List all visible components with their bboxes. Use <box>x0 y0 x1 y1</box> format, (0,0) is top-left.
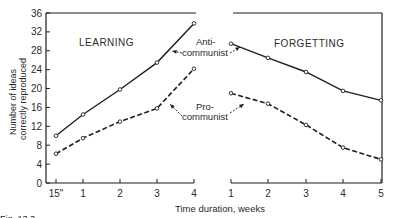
y-tick-label: 4 <box>36 159 42 170</box>
learning-pro-communist-line <box>56 69 194 154</box>
data-point <box>304 123 308 127</box>
annotation-anti-line2: communist <box>182 47 228 58</box>
data-point <box>54 152 58 156</box>
data-point <box>192 67 196 71</box>
data-point <box>155 107 159 111</box>
data-point <box>192 22 196 26</box>
learning-forgetting-chart: 0481216202428323615"123412345 LEARNING F… <box>0 0 393 218</box>
y-tick-label: 8 <box>36 140 42 151</box>
data-point <box>266 56 270 60</box>
x-tick-label: 4 <box>191 188 197 199</box>
x-tick-label: 5 <box>378 188 384 199</box>
y-tick-label: 16 <box>31 102 43 113</box>
y-tick-label: 12 <box>31 121 43 132</box>
x-tick-label: 3 <box>154 188 160 199</box>
y-tick-label: 20 <box>31 83 43 94</box>
y-tick-label: 24 <box>31 64 43 75</box>
data-point <box>155 61 159 65</box>
data-point <box>118 88 122 92</box>
x-tick-label: 4 <box>340 188 346 199</box>
x-tick-label: 3 <box>303 188 309 199</box>
data-point <box>81 136 85 140</box>
x-tick-label: 15" <box>49 188 64 199</box>
x-tick-label: 2 <box>117 188 123 199</box>
data-point <box>54 134 58 138</box>
panel-title-learning: LEARNING <box>79 37 134 48</box>
data-point <box>379 158 383 162</box>
x-tick-label: 2 <box>265 188 271 199</box>
y-tick-label: 32 <box>31 26 43 37</box>
figure-caption: Fig. 13.3 <box>0 214 35 218</box>
y-tick-label: 28 <box>31 45 43 56</box>
data-point <box>229 91 233 95</box>
data-point <box>341 89 345 93</box>
annotation-anti-line1: Anti- <box>196 36 216 47</box>
annotation-pro-line2: communist <box>182 111 228 122</box>
panel-title-forgetting: FORGETTING <box>274 38 345 49</box>
data-point <box>266 102 270 106</box>
arrowhead-icon <box>239 104 244 108</box>
data-point <box>379 99 383 103</box>
data-point <box>304 70 308 74</box>
data-point <box>229 42 233 46</box>
x-tick-label: 1 <box>80 188 86 199</box>
data-point <box>81 113 85 117</box>
data-point <box>118 120 122 124</box>
x-axis-label: Time duration, weeks <box>175 203 265 214</box>
y-axis-label-line1: Number of ideas <box>8 68 18 135</box>
y-axis-label-line2: correctly reproduced <box>18 58 28 140</box>
data-point <box>341 146 345 150</box>
x-tick-label: 1 <box>228 188 234 199</box>
y-tick-label: 36 <box>31 8 43 19</box>
y-tick-label: 0 <box>36 178 42 189</box>
arrowhead-icon <box>172 50 177 54</box>
